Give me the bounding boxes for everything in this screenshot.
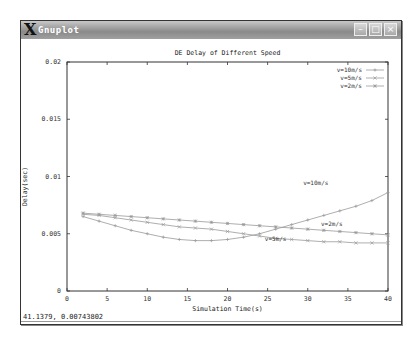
status-divider [21,321,401,322]
window-title: Gnuplot [38,21,79,39]
x-tick-label: 10 [143,295,151,303]
x-tick-label: 30 [304,295,312,303]
y-tick-label: 0.005 [41,230,61,238]
x-tick-label: 35 [344,295,352,303]
title-bar[interactable]: X Gnuplot – □ × [21,21,401,39]
chart-canvas[interactable]: DE Delay of Different Speed0510152025303… [21,39,401,324]
x-tick-label: 15 [183,295,191,303]
gnuplot-window: X Gnuplot – □ × DE Delay of Different Sp… [20,20,402,325]
close-button[interactable]: × [384,23,397,36]
x11-logo-icon: X [24,21,36,39]
y-axis-label: Delay(sec) [21,167,29,206]
maximize-button[interactable]: □ [369,23,382,36]
series-annotation: v=10m/s [303,179,329,186]
y-tick-label: 0 [57,287,61,295]
minimize-button[interactable]: – [354,23,367,36]
x-tick-label: 20 [224,295,232,303]
legend-label: v=5m/s [340,74,362,81]
series-annotation: v=5m/s [265,235,287,242]
y-tick-label: 0.01 [45,173,61,181]
x-tick-label: 40 [384,295,392,303]
series-annotation: v=2m/s [321,220,343,227]
legend-label: v=10m/s [337,66,363,73]
x-tick-label: 0 [65,295,69,303]
plot-frame [67,62,388,291]
cursor-coordinates: 41.1379, 0.00743802 [23,313,103,321]
x-tick-label: 25 [264,295,272,303]
y-tick-label: 0.02 [45,58,61,66]
legend-label: v=2m/s [340,82,362,89]
x-tick-label: 5 [105,295,109,303]
chart-title: DE Delay of Different Speed [175,49,281,57]
x-axis-label: Simulation Time(s) [192,305,262,313]
y-tick-label: 0.015 [41,115,61,123]
